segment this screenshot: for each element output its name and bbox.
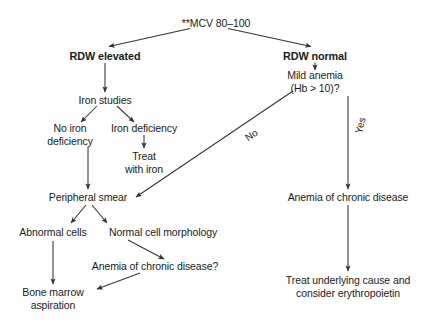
node-no-iron-deficiency-line1: No iron <box>53 122 86 134</box>
edge-label-no: No <box>243 127 260 143</box>
node-treat-with-iron-line2: with iron <box>125 163 163 175</box>
node-treat-underlying-line2: consider erythropoietin <box>296 287 400 299</box>
node-bone-marrow-line1: Bone marrow <box>22 286 83 298</box>
edge-no-branch-to-peripheral-smear <box>136 91 293 197</box>
node-no-iron-deficiency-line2: deficiency <box>47 135 93 147</box>
node-rdw-elevated: RDW elevated <box>70 50 141 62</box>
node-abnormal-cells: Abnormal cells <box>19 226 86 238</box>
edge-peripheral-smear-to-normal-cell-morphology <box>92 205 107 223</box>
edge-normal-morphology-to-acd-question <box>128 240 164 259</box>
node-mild-anemia-line1: Mild anemia <box>287 69 343 81</box>
node-treat-underlying-line1: Treat underlying cause and <box>286 274 410 286</box>
node-normal-cell-morphology: Normal cell morphology <box>109 226 217 238</box>
node-anemia-chronic-disease-question: Anemia of chronic disease? <box>92 260 218 272</box>
edge-iron-studies-to-no-iron-deficiency <box>81 106 97 122</box>
edge-root-to-rdw-elevated <box>109 29 190 47</box>
node-iron-studies: Iron studies <box>78 94 131 106</box>
node-treat-with-iron-line1: Treat <box>132 150 156 162</box>
edge-acd-question-to-bone-marrow <box>97 273 140 289</box>
node-mild-anemia-line2: (Hb > 10)? <box>291 82 340 94</box>
node-peripheral-smear: Peripheral smear <box>49 191 127 203</box>
edge-peripheral-smear-to-abnormal-cells <box>71 205 86 223</box>
node-iron-deficiency: Iron deficiency <box>111 122 177 134</box>
node-rdw-normal: RDW normal <box>283 50 347 62</box>
node-bone-marrow-line2: aspiration <box>31 299 76 311</box>
flowchart-canvas: **MCV 80–100 RDW elevated RDW normal Iro… <box>0 0 431 325</box>
node-root-mcv: **MCV 80–100 <box>182 17 250 29</box>
node-anemia-chronic-disease: Anemia of chronic disease <box>288 191 409 203</box>
edge-label-yes: Yes <box>353 116 368 135</box>
edge-iron-studies-to-iron-deficiency <box>117 106 134 122</box>
edge-root-to-rdw-normal <box>228 29 311 47</box>
